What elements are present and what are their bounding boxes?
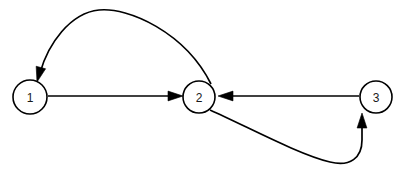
edge-3-to-2-arrowhead [218,91,233,101]
node-2-label: 2 [196,91,203,105]
edge-2-to-1-arrowhead [36,66,45,82]
edge-1-to-2[interactable] [48,91,183,101]
edge-3-to-2[interactable] [218,91,359,101]
edge-2-to-1-curve [40,10,211,84]
edge-2-to-1[interactable] [36,10,211,84]
graph-canvas: 1 2 3 [0,0,402,179]
graph-figure: 1 2 3 [0,0,402,179]
node-3[interactable]: 3 [360,81,392,113]
edge-2-to-3-curve [210,110,362,163]
node-layer: 1 2 3 [13,80,392,114]
node-1[interactable]: 1 [13,80,47,114]
node-1-label: 1 [27,91,34,105]
node-3-label: 3 [373,91,380,105]
edge-1-to-2-arrowhead [168,91,183,101]
edge-2-to-3-arrowhead [357,113,367,128]
edge-2-to-3[interactable] [210,110,367,163]
node-2[interactable]: 2 [183,81,215,113]
